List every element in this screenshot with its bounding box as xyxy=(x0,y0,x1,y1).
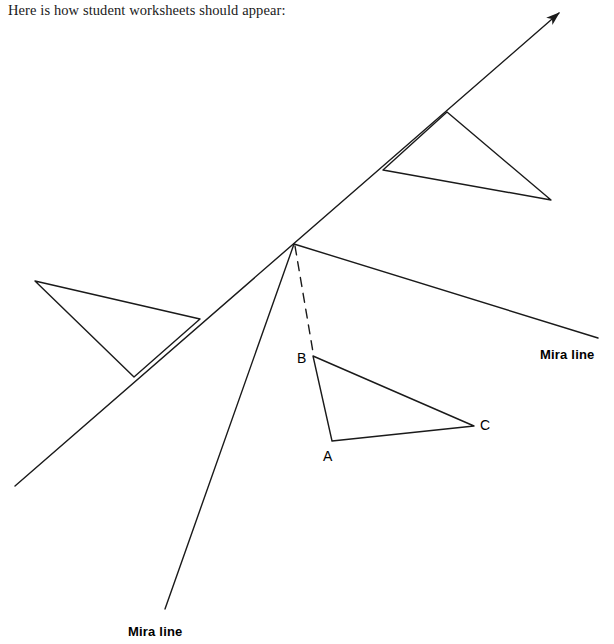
dashed-construction-line xyxy=(295,246,313,352)
triangle-reflected-upper-right xyxy=(383,112,551,200)
diagonal-mira-line xyxy=(15,13,559,486)
vertex-label-b: B xyxy=(297,350,306,366)
vertex-label-a: A xyxy=(323,448,332,464)
right-ray xyxy=(294,244,598,338)
mira-reflection-figure xyxy=(0,0,614,644)
mira-line-label-right: Mira line xyxy=(540,347,595,362)
triangle-abc xyxy=(313,356,474,441)
mira-line-label-bottom: Mira line xyxy=(128,624,183,639)
triangle-reflected-left xyxy=(35,281,200,377)
vertex-label-c: C xyxy=(480,417,490,433)
